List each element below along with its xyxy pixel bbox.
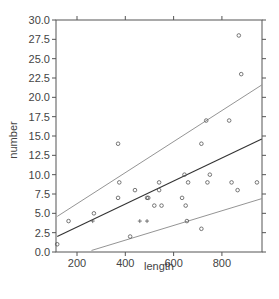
y-tick-label: 30.0: [29, 14, 50, 26]
lower-band: [92, 199, 262, 251]
data-point: [237, 34, 241, 38]
x-axis-title: length: [144, 260, 174, 272]
data-point: [200, 142, 204, 146]
x-tick-label: 400: [116, 257, 134, 269]
x-tick-label: 200: [68, 257, 86, 269]
y-tick-label: 25.0: [29, 53, 50, 65]
data-point: [206, 181, 210, 185]
x-axis: 200400600800: [68, 16, 231, 269]
y-tick-label: 12.5: [29, 149, 50, 161]
data-point: [160, 204, 164, 208]
data-point: [157, 181, 161, 185]
y-tick-label: 7.5: [35, 188, 50, 200]
y-tick-label: 15.0: [29, 130, 50, 142]
data-point: [255, 181, 259, 185]
data-point: [67, 219, 71, 223]
upper-band: [57, 85, 262, 216]
plot-frame: [56, 20, 262, 252]
data-point: [239, 72, 243, 76]
data-point: [116, 196, 120, 200]
y-tick-label: 17.5: [29, 111, 50, 123]
y-tick-label: 0.0: [35, 246, 50, 258]
regression-lines: [57, 85, 262, 250]
data-point: [92, 212, 96, 216]
data-point: [116, 142, 120, 146]
data-point: [157, 188, 161, 192]
scatter-chart: 200400600800 0.02.55.07.510.012.515.017.…: [0, 0, 279, 299]
data-point: [152, 204, 156, 208]
data-point: [230, 181, 234, 185]
data-point: [208, 173, 212, 177]
y-tick-label: 10.0: [29, 169, 50, 181]
data-point: [236, 188, 240, 192]
y-tick-label: 27.5: [29, 33, 50, 45]
data-point: [186, 181, 190, 185]
y-tick-label: 2.5: [35, 227, 50, 239]
y-tick-label: 5.0: [35, 207, 50, 219]
data-point: [227, 119, 231, 123]
data-point: [133, 188, 137, 192]
data-points: [55, 34, 258, 246]
plot-border: [56, 20, 262, 252]
data-point: [200, 227, 204, 231]
data-point: [184, 204, 188, 208]
data-point: [180, 196, 184, 200]
x-tick-label: 800: [213, 257, 231, 269]
fitted-line: [57, 139, 262, 236]
y-axis-title: number: [7, 121, 19, 159]
data-point: [117, 181, 121, 185]
data-point: [128, 235, 132, 239]
y-tick-label: 22.5: [29, 72, 50, 84]
y-tick-label: 20.0: [29, 91, 50, 103]
